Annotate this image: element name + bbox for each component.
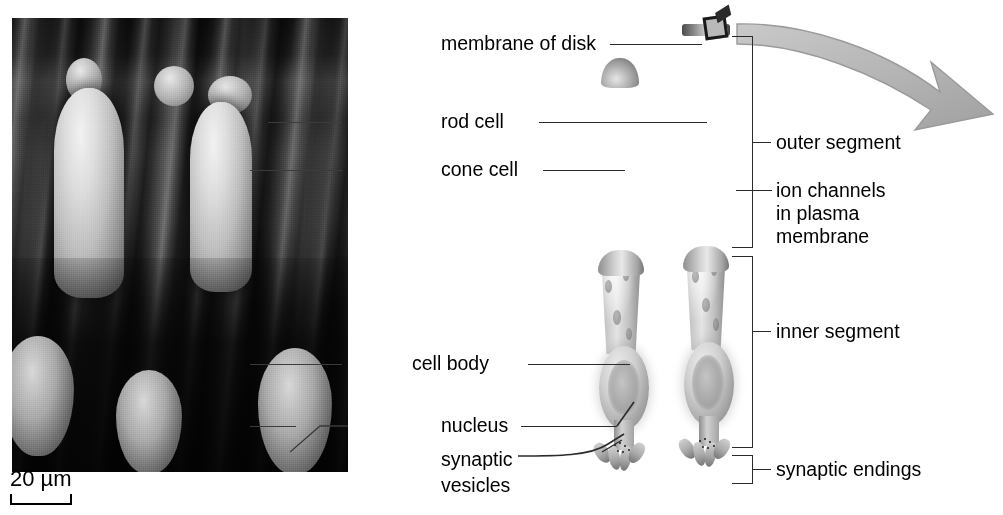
bracket-synaptic-endings — [732, 455, 753, 484]
leader-synaptic-vesicles — [518, 430, 638, 462]
mitochondrion — [626, 328, 632, 340]
leader-nucleus-illustration-bend — [612, 392, 648, 432]
synaptic-vesicle — [699, 440, 701, 442]
cone-outer-segment-tip — [601, 58, 639, 88]
micrograph-grain — [12, 18, 348, 472]
leader-nucleus-illustration — [521, 426, 617, 427]
cone-outer-segment — [598, 62, 642, 267]
scale-bar-rule — [10, 494, 72, 505]
leader-membrane-of-disk — [610, 44, 702, 45]
label-synaptic-vesicles-line2: vesicles — [441, 474, 510, 497]
bracket-inner-segment — [732, 256, 753, 448]
scanning-electron-micrograph — [12, 18, 348, 472]
label-ion-channels-line3: membrane — [776, 225, 869, 248]
cone-inner-segment-cap — [598, 250, 644, 276]
label-synaptic-vesicles-line1: synaptic — [441, 448, 513, 471]
scale-bar: 20 µm — [10, 466, 72, 505]
bracket-stem-inner-segment — [753, 331, 771, 332]
curved-arrow-icon — [735, 18, 1003, 136]
label-cone-cell: cone cell — [441, 158, 518, 181]
micrograph-panel — [6, 10, 348, 472]
leader-cell-body-illustration — [528, 364, 630, 365]
rod-cell-body — [684, 342, 734, 426]
label-rod-cell: rod cell — [441, 110, 504, 133]
rod-nucleus — [692, 355, 724, 411]
leader-ion-channels — [736, 190, 772, 191]
leader-rod-cell-micrograph — [268, 122, 342, 123]
label-nucleus: nucleus — [441, 414, 508, 437]
scale-bar-label: 20 µm — [10, 466, 72, 492]
mitochondrion — [702, 298, 710, 312]
synaptic-vesicle — [707, 447, 709, 449]
label-inner-segment: inner segment — [776, 320, 900, 343]
mitochondrion — [605, 280, 612, 293]
membrane-disk-icon — [703, 15, 729, 41]
membrane-disk-flap-icon — [715, 4, 731, 23]
rod-cell-illustration — [682, 30, 738, 485]
bracket-stem-outer-segment — [753, 142, 771, 143]
rod-outer-segment — [682, 30, 730, 252]
label-outer-segment: outer segment — [776, 131, 901, 154]
leader-cell-body-micrograph — [250, 364, 342, 365]
label-ion-channels-line1: ion channels — [776, 179, 886, 202]
label-synaptic-endings: synaptic endings — [776, 458, 921, 481]
label-cell-body: cell body — [412, 352, 489, 375]
synaptic-vesicle — [709, 441, 711, 443]
synaptic-vesicle — [704, 438, 706, 440]
bracket-outer-segment — [732, 36, 753, 248]
leader-rod-cell-illustration — [539, 122, 707, 123]
mitochondrion — [713, 318, 719, 331]
label-membrane-of-disk: membrane of disk — [441, 32, 596, 55]
photoreceptor-figure: 20 µm — [0, 0, 1003, 515]
leader-cone-cell-illustration — [543, 170, 625, 171]
label-ion-channels-line2: in plasma — [776, 202, 859, 225]
leader-nucleus-micrograph-bend — [290, 412, 348, 458]
synaptic-vesicle — [713, 445, 715, 447]
synaptic-vesicle — [702, 446, 704, 448]
leader-cone-cell-micrograph — [250, 170, 342, 171]
bracket-stem-synaptic-endings — [753, 469, 771, 470]
mitochondrion — [613, 310, 621, 325]
